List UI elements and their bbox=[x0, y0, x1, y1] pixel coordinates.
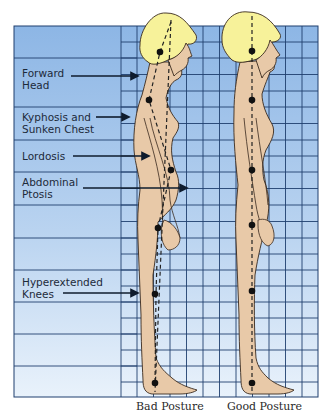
label-abdominal-ptosis-line2: Ptosis bbox=[22, 188, 78, 200]
label-abdominal-ptosis: Abdominal Ptosis bbox=[22, 176, 78, 200]
label-abdominal-ptosis-line1: Abdominal bbox=[22, 176, 78, 188]
diagram-canvas bbox=[0, 0, 331, 417]
label-forward-head-line1: Forward bbox=[22, 67, 64, 79]
posture-diagram: Forward Head Kyphosis and Sunken Chest L… bbox=[0, 0, 331, 417]
label-hyperextended-knees-line1: Hyperextended bbox=[22, 276, 103, 288]
label-kyphosis: Kyphosis and Sunken Chest bbox=[22, 111, 94, 135]
label-hyperextended-knees: Hyperextended Knees bbox=[22, 276, 103, 300]
label-kyphosis-line1: Kyphosis and bbox=[22, 111, 94, 123]
caption-bad-posture: Bad Posture bbox=[136, 400, 204, 413]
label-lordosis: Lordosis bbox=[22, 150, 65, 162]
caption-good-posture: Good Posture bbox=[227, 400, 302, 413]
label-forward-head-line2: Head bbox=[22, 79, 64, 91]
label-lordosis-line1: Lordosis bbox=[22, 150, 65, 162]
label-forward-head: Forward Head bbox=[22, 67, 64, 91]
label-hyperextended-knees-line2: Knees bbox=[22, 288, 103, 300]
label-kyphosis-line2: Sunken Chest bbox=[22, 123, 94, 135]
